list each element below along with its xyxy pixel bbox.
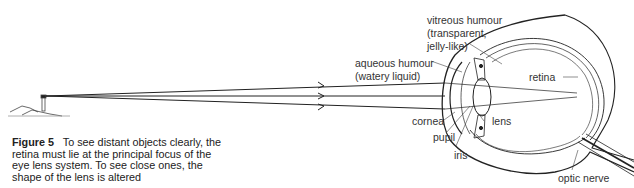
label-pupil: pupil xyxy=(433,131,455,143)
label-optic-nerve: optic nerve xyxy=(558,172,609,184)
label-vitreous-humour-desc: (transparent, xyxy=(427,27,487,39)
label-lens: lens xyxy=(492,115,511,127)
lighthouse-icon xyxy=(8,95,70,116)
figure-caption: Figure 5 To see distant objects clearly,… xyxy=(12,137,222,183)
label-vitreous-humour: vitreous humour xyxy=(427,14,502,26)
eyeball xyxy=(442,15,634,176)
label-vitreous-humour-desc2: jelly-like) xyxy=(427,40,468,52)
light-rays xyxy=(46,83,577,109)
label-aqueous-humour: aqueous humour xyxy=(355,57,434,69)
label-aqueous-humour-desc: (watery liquid) xyxy=(355,70,420,82)
label-iris: iris xyxy=(454,149,467,161)
figure-label: Figure 5 xyxy=(12,136,54,148)
label-retina: retina xyxy=(529,71,555,83)
label-cornea: cornea xyxy=(412,115,444,127)
